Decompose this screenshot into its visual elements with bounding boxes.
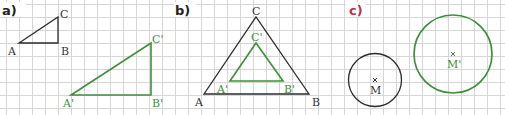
vertex-c-label: C [252, 5, 260, 18]
triangle-a1b1c1 [230, 43, 283, 81]
center-m-prime-marker [451, 52, 455, 56]
vertex-a-prime-label: A' [62, 97, 74, 110]
vertex-b-prime-label: B' [284, 83, 295, 96]
center-m-label: M [370, 84, 381, 97]
panel-b-label: b) [175, 3, 190, 18]
panel-a-label: a) [2, 3, 17, 18]
vertex-c-prime-label: C' [152, 33, 163, 46]
vertex-b-label: B [61, 45, 69, 58]
center-m-prime-label: M' [447, 58, 461, 71]
vertex-b-prime-label: B' [152, 97, 163, 110]
vertex-b-label: B [312, 96, 320, 109]
vertex-c-label: C [60, 8, 68, 21]
vertex-a-label: A [7, 45, 17, 58]
panel-c-label: c) [349, 3, 363, 18]
vertex-c-prime-label: C' [251, 31, 262, 44]
vertex-a-prime-label: A' [216, 83, 228, 96]
vertex-a-label: A [194, 96, 204, 109]
center-m-marker [373, 78, 377, 82]
diagram-canvas: a) A B C A' B' C' b) A B C A' B' C' c) [0, 0, 505, 115]
